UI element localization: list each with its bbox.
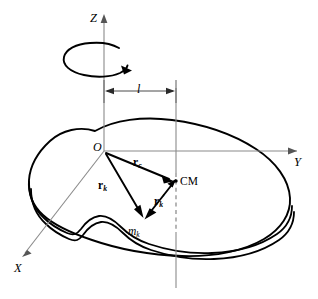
cm-label: CM (180, 176, 198, 188)
y-axis-arrowhead (288, 148, 297, 155)
length-label: l (137, 83, 140, 95)
dimension-arrowhead-left (105, 88, 114, 95)
diagram-svg (0, 0, 318, 299)
figure-canvas: Z Y X O l CM rc rk rk′ mk (0, 0, 318, 299)
vector-r-c-subscript: c (138, 161, 141, 170)
origin-label: O (93, 141, 102, 153)
mass-element-subscript: k (136, 230, 139, 239)
rigid-body-thickness-edge (29, 182, 292, 253)
y-axis-label: Y (294, 156, 301, 169)
rotation-indicator-group (64, 43, 132, 77)
vector-r-c-label: rc (133, 157, 141, 169)
cm-point-marker (174, 179, 177, 182)
x-axis-arrowhead (22, 250, 32, 257)
x-axis-label: X (14, 262, 22, 275)
z-axis-label: Z (90, 12, 97, 25)
rigid-body-top-outline (29, 118, 290, 256)
vector-r-k-prime-arrowhead (145, 208, 157, 219)
vector-r-k-prime-mark: ′ (163, 193, 166, 203)
y-axis-group (104, 148, 297, 155)
vector-r-k-arrowhead (134, 205, 144, 218)
vector-r-k-subscript: k (103, 184, 107, 193)
mass-element-label: mk (128, 226, 140, 238)
vector-r-k-prime-label: rk′ (154, 196, 166, 208)
dimension-arrowhead-right (166, 88, 175, 95)
rigid-body-group (29, 118, 294, 259)
vector-r-k-label: rk (98, 180, 107, 192)
z-axis-arrowhead (101, 14, 108, 23)
rotation-ellipse (64, 43, 128, 77)
